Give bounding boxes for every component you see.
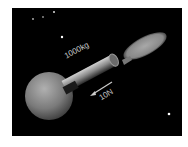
space-scene: 1000kg 10N [12,8,182,136]
spacecraft-illustration [12,8,182,136]
